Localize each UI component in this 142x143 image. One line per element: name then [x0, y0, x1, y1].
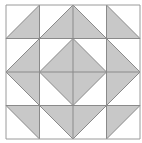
quilt-block-diagram	[0, 0, 142, 143]
